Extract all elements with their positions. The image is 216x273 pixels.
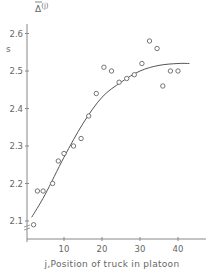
x-tick-label: 20 xyxy=(97,244,108,254)
data-point xyxy=(62,151,66,155)
fitted-curve xyxy=(32,63,190,217)
data-point xyxy=(125,76,129,80)
x-axis-label: j,Position of truck in platoon xyxy=(44,259,180,269)
data-point xyxy=(176,69,180,73)
data-point xyxy=(117,80,121,84)
data-point xyxy=(94,91,98,95)
y-tick-label: 2.1 xyxy=(9,216,23,226)
data-point xyxy=(132,73,136,77)
y-tick-label: 2.2 xyxy=(9,179,23,189)
x-tick-label: 10 xyxy=(59,244,70,254)
data-point xyxy=(71,144,75,148)
data-point xyxy=(140,61,144,65)
y-axis-label: Δ(j) xyxy=(35,2,49,14)
data-point xyxy=(109,69,113,73)
data-point xyxy=(168,69,172,73)
y-tick-label: 2.3 xyxy=(9,141,23,151)
chart: 2.12.22.32.42.52.610203040 Δ(j) s j,Posi… xyxy=(0,0,216,273)
y-tick-label: 2.5 xyxy=(9,66,23,76)
data-points xyxy=(31,39,180,227)
data-point xyxy=(102,65,106,69)
x-tick-label: 40 xyxy=(173,244,184,254)
data-point xyxy=(79,136,83,140)
y-tick-label: 2.4 xyxy=(9,104,23,114)
axis-ticks: 2.12.22.32.42.52.610203040 xyxy=(9,29,183,255)
data-point xyxy=(56,159,60,163)
data-point xyxy=(31,223,35,227)
data-point xyxy=(147,39,151,43)
y-tick-label: 2.6 xyxy=(9,29,23,39)
x-tick-label: 30 xyxy=(135,244,146,254)
data-point xyxy=(50,181,54,185)
data-point xyxy=(155,46,159,50)
data-point xyxy=(161,84,165,88)
data-point xyxy=(87,114,91,118)
y-axis-unit: s xyxy=(6,44,11,54)
data-point xyxy=(35,189,39,193)
data-point xyxy=(41,189,45,193)
axes xyxy=(24,2,206,242)
